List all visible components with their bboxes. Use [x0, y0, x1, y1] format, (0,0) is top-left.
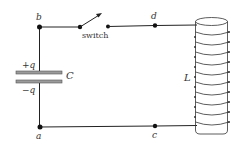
- node-b-label: b: [36, 12, 42, 22]
- capacitor-top-charge-label: +q: [22, 60, 36, 70]
- coil-winding: [196, 122, 230, 125]
- capacitor: [16, 71, 62, 83]
- capacitor-top-plate: [16, 71, 62, 74]
- coil-winding: [196, 32, 230, 35]
- switch-blade: [80, 15, 100, 28]
- coil-winding: [196, 92, 230, 95]
- node-a: [38, 125, 43, 130]
- node-b: [37, 25, 42, 30]
- lc-circuit-diagram: b a d c switch +q −q C L: [0, 0, 239, 145]
- wire-d-to-inductor: [155, 25, 197, 26]
- wire-a-to-c: [40, 126, 156, 127]
- coil-winding: [196, 82, 230, 85]
- wire-c-to-inductor: [155, 126, 197, 127]
- coil-winding: [196, 42, 230, 45]
- node-d: [153, 23, 157, 27]
- node-a-label: a: [36, 131, 41, 141]
- coil-bottom: [196, 130, 228, 134]
- wire-switch-to-d: [108, 26, 155, 27]
- node-c-label: c: [152, 130, 157, 140]
- coil-winding: [196, 102, 230, 105]
- coil-top-ellipse: [196, 18, 228, 26]
- node-c: [153, 124, 157, 128]
- node-d-label: d: [151, 11, 157, 21]
- switch-label: switch: [82, 31, 108, 40]
- inductor: [194, 18, 230, 135]
- coil-winding: [196, 72, 230, 75]
- capacitor-bottom-charge-label: −q: [22, 85, 36, 95]
- capacitor-label: C: [66, 70, 74, 81]
- coil-winding: [196, 62, 230, 65]
- coil-winding: [196, 112, 230, 115]
- capacitor-bottom-plate: [16, 80, 62, 83]
- coil-winding: [196, 52, 230, 55]
- switch: [78, 13, 110, 29]
- inductor-label: L: [183, 72, 191, 83]
